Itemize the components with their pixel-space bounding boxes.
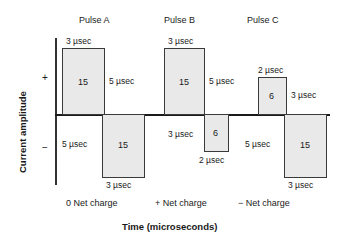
pulse-b-interphase-label: 5 µsec <box>209 77 234 86</box>
pulse-b-positive-duration-label: 3 µsec <box>168 37 193 46</box>
x-axis-title: Time (microseconds) <box>122 221 217 232</box>
pulse-a-interphase-label: 5 µsec <box>109 77 134 86</box>
pulse-title-a: Pulse A <box>79 16 110 25</box>
y-axis-negative-sign: − <box>42 142 48 153</box>
y-axis-line <box>55 38 57 185</box>
pulse-a-positive-duration-label: 3 µsec <box>66 37 91 46</box>
pulse-b-negative-amplitude: 6 <box>213 128 218 138</box>
pulse-title-b: Pulse B <box>164 16 195 25</box>
pulse-c-positive-amplitude: 6 <box>269 91 274 101</box>
pulse-c-negative-interphase-label: 5 µsec <box>245 140 270 149</box>
pulse-waveform-figure: Current amplitude + − Pulse A 3 µsec 15 … <box>0 0 344 240</box>
pulse-c-positive-duration-label: 2 µsec <box>258 66 283 75</box>
y-axis-positive-sign: + <box>42 72 48 83</box>
pulse-c-negative-amplitude: 15 <box>300 140 310 150</box>
pulse-a-negative-amplitude: 15 <box>118 140 128 150</box>
pulse-c-net-charge: − Net charge <box>238 198 290 208</box>
pulse-a-negative-duration-label: 3 µsec <box>106 181 131 190</box>
y-axis-title: Current amplitude <box>17 91 28 173</box>
pulse-b-negative-duration-label: 2 µsec <box>199 156 224 165</box>
pulse-a-net-charge: 0 Net charge <box>66 198 118 208</box>
pulse-a-positive-amplitude: 15 <box>78 77 88 87</box>
pulse-title-c: Pulse C <box>247 16 279 25</box>
pulse-b-net-charge: + Net charge <box>155 198 207 208</box>
pulse-b-negative-interphase-label: 3 µsec <box>168 130 193 139</box>
pulse-c-negative-duration-label: 3 µsec <box>288 181 313 190</box>
pulse-b-positive-amplitude: 15 <box>179 77 189 87</box>
pulse-c-interphase-label: 3 µsec <box>291 91 316 100</box>
pulse-a-negative-interphase-label: 5 µsec <box>62 140 87 149</box>
